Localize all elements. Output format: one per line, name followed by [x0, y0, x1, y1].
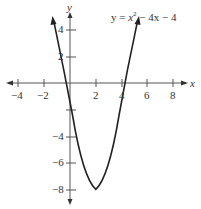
x-tick-label: 2: [93, 90, 99, 101]
y-axis-down-arrow-icon: [68, 199, 73, 205]
x-tick-label: 6: [144, 90, 150, 101]
curve-left-arrow-icon: [51, 16, 57, 25]
y-tick-label: −8: [52, 184, 64, 195]
x-tick-label: 4: [119, 90, 125, 101]
y-tick-label: 2: [58, 51, 64, 62]
y-tick-label: −6: [52, 157, 64, 168]
parabola-curve: [54, 24, 137, 190]
y-tick-label: −4: [52, 131, 64, 142]
x-axis-left-arrow-icon: [6, 81, 13, 86]
equation-label: y = x2 − 4x − 4: [111, 11, 177, 23]
x-tick-label: −4: [11, 90, 23, 101]
parabola-plot: [0, 0, 201, 209]
x-tick-label: −2: [37, 90, 49, 101]
x-tick-label: 8: [170, 90, 176, 101]
x-axis-right-arrow-icon: [181, 81, 188, 86]
x-axis-label: x: [190, 78, 195, 89]
y-tick-label: 4: [58, 24, 64, 35]
y-axis-label: y: [67, 2, 72, 13]
